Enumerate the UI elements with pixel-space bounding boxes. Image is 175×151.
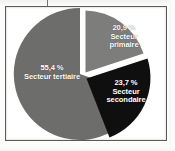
scan-artifact-bottom xyxy=(0,147,175,151)
pie-label-secteur-primaire: 20,9 % Secteur primaire xyxy=(93,24,155,50)
pie-label-secteur-secondaire: 23,7 % Secteur secondaire xyxy=(91,79,161,105)
pie-label-primaire-name-line2: primaire xyxy=(93,41,155,50)
scan-artifact-top xyxy=(0,0,175,5)
pie-chart: 20,9 % Secteur primaire 23,7 % Secteur s… xyxy=(5,6,167,141)
pie-label-tertiaire-name-line1: Secteur tertiaire xyxy=(13,73,91,82)
scan-artifact-right xyxy=(169,0,175,151)
pie-chart-screenshot: 20,9 % Secteur primaire 23,7 % Secteur s… xyxy=(0,0,175,151)
pie-label-secondaire-name-line2: secondaire xyxy=(91,96,161,105)
pie-label-secteur-tertiaire: 55,4 % Secteur tertiaire xyxy=(13,64,91,81)
